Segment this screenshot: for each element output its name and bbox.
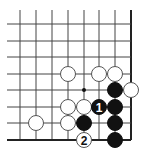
stone-circle <box>29 116 44 131</box>
white-stone[interactable]: 2 <box>77 133 92 148</box>
stone-circle <box>77 116 92 131</box>
stone-circle <box>108 83 123 98</box>
go-board: 12 <box>0 0 150 162</box>
stone-circle <box>61 67 76 82</box>
stone-circle <box>108 100 123 115</box>
stone-circle <box>61 100 76 115</box>
move-number-label: 1 <box>96 101 103 115</box>
stone-circle <box>61 116 76 131</box>
star-points <box>82 88 86 92</box>
white-stone[interactable] <box>29 116 44 131</box>
black-stone[interactable] <box>108 116 123 131</box>
black-stone[interactable] <box>108 83 123 98</box>
stone-circle <box>108 67 123 82</box>
stone-circle <box>77 100 92 115</box>
black-stone[interactable]: 1 <box>92 100 107 115</box>
move-number-label: 2 <box>81 134 88 148</box>
black-stone[interactable] <box>77 116 92 131</box>
black-stone[interactable] <box>108 133 123 148</box>
star-point <box>82 88 86 92</box>
stone-circle <box>124 83 139 98</box>
white-stone[interactable] <box>61 100 76 115</box>
stone-circle <box>108 133 123 148</box>
white-stone[interactable] <box>108 67 123 82</box>
white-stone[interactable] <box>61 67 76 82</box>
stone-circle <box>108 116 123 131</box>
white-stone[interactable] <box>77 100 92 115</box>
white-stone[interactable] <box>61 116 76 131</box>
white-stone[interactable] <box>124 83 139 98</box>
black-stone[interactable] <box>108 100 123 115</box>
stone-circle <box>92 67 107 82</box>
white-stone[interactable] <box>92 67 107 82</box>
